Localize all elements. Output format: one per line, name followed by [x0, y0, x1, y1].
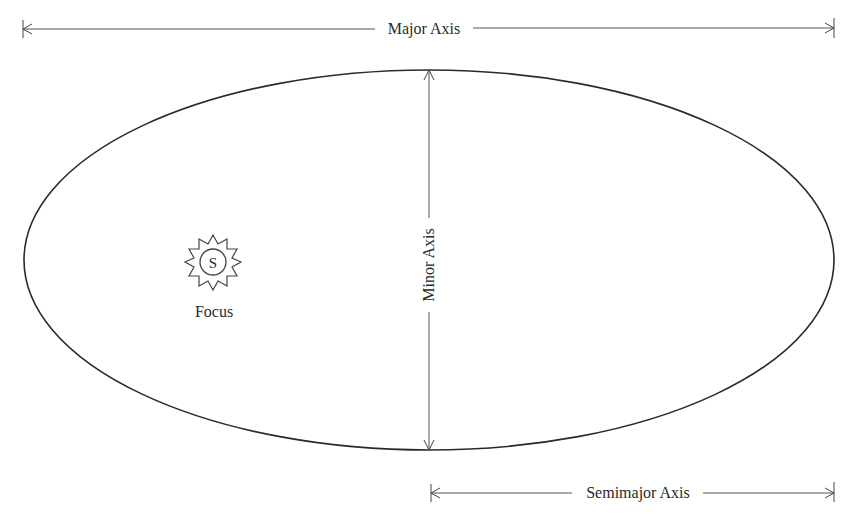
major-axis-label: Major Axis	[388, 20, 460, 38]
major-axis-dimension: Major Axis	[23, 18, 834, 38]
semimajor-axis-dimension: Semimajor Axis	[431, 482, 834, 502]
semimajor-axis-label: Semimajor Axis	[586, 484, 690, 502]
minor-axis-dimension: Minor Axis	[420, 70, 437, 450]
minor-axis-label: Minor Axis	[420, 228, 437, 301]
sun-symbol: S	[209, 255, 217, 271]
orbit-diagram: Major Axis Minor Axis S Focus Semimajor …	[0, 0, 852, 515]
sun-focus: S Focus	[185, 235, 241, 320]
focus-label: Focus	[195, 303, 233, 320]
